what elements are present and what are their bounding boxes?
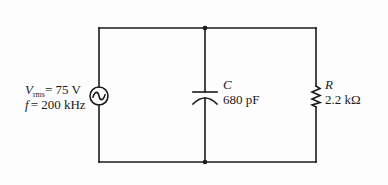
circuit-diagram: Vrms= 75 V f= 200 kHz C 680 pF R 2.2 kΩ — [0, 0, 388, 185]
resistor-icon — [312, 86, 320, 107]
source-frequency-label: f= 200 kHz — [25, 97, 86, 112]
ac-source-icon — [90, 87, 108, 105]
junction-dot-top — [203, 26, 208, 31]
capacitor-symbol-label: C — [223, 77, 232, 92]
capacitor-value-label: 680 pF — [223, 92, 259, 107]
junction-dot-bottom — [203, 160, 208, 165]
resistor-symbol-label: R — [324, 77, 333, 92]
resistor-value-label: 2.2 kΩ — [325, 92, 361, 107]
circuit-svg: Vrms= 75 V f= 200 kHz C 680 pF R 2.2 kΩ — [0, 0, 388, 185]
